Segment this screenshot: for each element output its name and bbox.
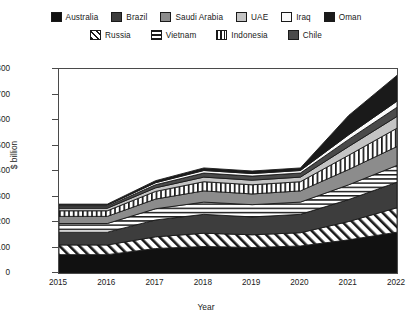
legend-label-chile: Chile — [303, 31, 322, 40]
x-tick-label: 2022 — [387, 278, 405, 287]
legend-swatch-chile — [288, 30, 299, 40]
y-tick-mark — [52, 272, 58, 273]
legend-swatch-australia — [51, 12, 62, 22]
legend-label-russia: Russia — [105, 31, 131, 40]
legend-row-2: Russia Vietnam Indonesia Chile — [0, 26, 412, 44]
y-tick-mark — [52, 68, 58, 69]
legend-swatch-oman — [324, 12, 335, 22]
legend-item-indonesia[interactable]: Indonesia — [216, 30, 267, 40]
y-tick-mark — [52, 196, 58, 197]
x-tick-label: 2016 — [97, 278, 115, 287]
legend-label-saudi-arabia: Saudi Arabia — [175, 13, 223, 22]
y-tick-label: 100 — [0, 242, 10, 251]
legend-label-vietnam: Vietnam — [166, 31, 197, 40]
x-tick-label: 2018 — [194, 278, 212, 287]
x-tick-label: 2019 — [242, 278, 260, 287]
x-tick-label: 2020 — [290, 278, 308, 287]
legend-label-oman: Oman — [339, 13, 362, 22]
y-tick-mark — [52, 119, 58, 120]
legend-swatch-vietnam — [151, 30, 162, 40]
y-tick-label: 600 — [0, 115, 10, 124]
legend-swatch-uae — [236, 12, 247, 22]
legend-item-uae[interactable]: UAE — [236, 12, 268, 22]
legend-item-brazil[interactable]: Brazil — [111, 12, 147, 22]
legend-label-brazil: Brazil — [126, 13, 147, 22]
x-tick-label: 2021 — [339, 278, 357, 287]
y-tick-mark — [52, 170, 58, 171]
y-tick-label: 0 — [0, 268, 10, 277]
legend-item-russia[interactable]: Russia — [90, 30, 131, 40]
legend-label-australia: Australia — [66, 13, 99, 22]
x-axis-title: Year — [0, 302, 412, 312]
y-tick-label: 800 — [0, 64, 10, 73]
legend-item-vietnam[interactable]: Vietnam — [151, 30, 197, 40]
legend-item-australia[interactable]: Australia — [51, 12, 99, 22]
y-tick-mark — [52, 145, 58, 146]
legend-item-chile[interactable]: Chile — [288, 30, 322, 40]
legend-swatch-brazil — [111, 12, 122, 22]
stacked-area-chart: Australia Brazil Saudi Arabia UAE Iraq O… — [0, 0, 412, 323]
legend-swatch-russia — [90, 30, 101, 40]
stacked-areas — [59, 69, 397, 273]
legend-row-1: Australia Brazil Saudi Arabia UAE Iraq O… — [0, 8, 412, 26]
legend-label-indonesia: Indonesia — [231, 31, 267, 40]
legend-item-oman[interactable]: Oman — [324, 12, 362, 22]
y-tick-mark — [52, 221, 58, 222]
plot-inner — [59, 69, 397, 273]
x-tick-label: 2015 — [49, 278, 67, 287]
x-tick-label: 2017 — [145, 278, 163, 287]
y-tick-label: 300 — [0, 191, 10, 200]
legend-swatch-indonesia — [216, 30, 227, 40]
legend-swatch-iraq — [281, 12, 292, 22]
y-tick-mark — [52, 247, 58, 248]
legend-item-iraq[interactable]: Iraq — [281, 12, 311, 22]
y-tick-label: 200 — [0, 217, 10, 226]
chart-legend: Australia Brazil Saudi Arabia UAE Iraq O… — [0, 8, 412, 44]
legend-swatch-saudi-arabia — [160, 12, 171, 22]
legend-label-iraq: Iraq — [296, 13, 311, 22]
legend-item-saudi-arabia[interactable]: Saudi Arabia — [160, 12, 223, 22]
legend-label-uae: UAE — [251, 13, 268, 22]
y-tick-label: 700 — [0, 89, 10, 98]
y-tick-mark — [52, 94, 58, 95]
plot-area — [58, 68, 398, 274]
y-axis-title: $ billion — [9, 125, 19, 185]
